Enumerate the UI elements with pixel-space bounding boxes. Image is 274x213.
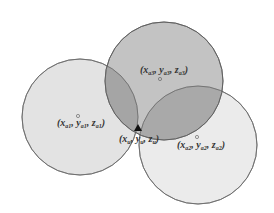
trilateration-diagram: (xa3, ya3, za3) (xa1, ya1, za1) (xa2, ya… — [0, 0, 274, 213]
diagram-canvas: (xa3, ya3, za3) (xa1, ya1, za1) (xa2, ya… — [0, 0, 274, 213]
